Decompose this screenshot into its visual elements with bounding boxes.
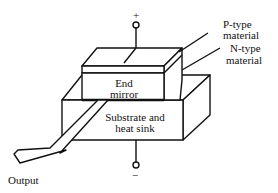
p-type-label-line2: material bbox=[223, 30, 259, 41]
plus-label: + bbox=[133, 10, 139, 21]
p-type-leader-line bbox=[179, 33, 208, 52]
n-type-leader-line bbox=[182, 48, 220, 70]
positive-terminal-icon bbox=[133, 22, 139, 28]
negative-terminal-icon bbox=[133, 162, 139, 168]
n-type-label-line1: N-type bbox=[230, 43, 261, 54]
minus-label: − bbox=[132, 170, 138, 181]
end-mirror-label-line2: mirror bbox=[102, 89, 146, 100]
substrate-label-line2: heat sink bbox=[100, 123, 170, 134]
negative-terminal bbox=[133, 140, 139, 168]
output-label: Output bbox=[8, 175, 39, 186]
p-type-layer bbox=[82, 66, 164, 73]
n-type-label-line2: material bbox=[226, 55, 262, 66]
